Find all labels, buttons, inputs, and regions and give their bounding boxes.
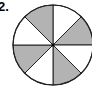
center-point: [52, 44, 55, 47]
fraction-circle-diagram: [0, 0, 92, 91]
